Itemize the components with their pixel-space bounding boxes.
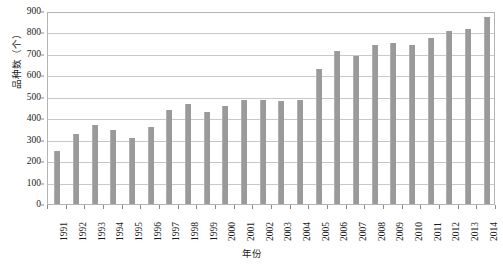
y-axis-tick-label: 700 <box>27 50 41 60</box>
x-axis-title: 年份 <box>0 246 503 260</box>
x-axis-tick-label: 2014 <box>490 222 500 241</box>
x-axis-tick-label: 2010 <box>415 222 425 241</box>
y-axis-tick-labels: 0100200300400500600700800900 <box>0 0 44 265</box>
x-axis-tick-label: 2007 <box>359 222 369 241</box>
x-axis-tick-label: 1992 <box>79 222 89 241</box>
x-axis-tick-label: 2000 <box>228 222 238 241</box>
bar <box>390 43 396 204</box>
bar <box>409 45 415 204</box>
y-axis-tick-mark <box>41 205 44 206</box>
y-axis-tick-mark <box>41 12 44 13</box>
y-axis-tick-mark <box>41 183 44 184</box>
y-axis-tick-label: 900 <box>27 7 41 17</box>
x-axis-tick-label: 2008 <box>378 222 388 241</box>
y-axis-tick-mark <box>41 76 44 77</box>
x-axis-tick-label: 1999 <box>210 222 220 241</box>
bar-chart: 品种数（个） 0100200300400500600700800900 1991… <box>0 0 503 265</box>
y-axis-tick-mark <box>41 97 44 98</box>
x-axis-tick-label: 2004 <box>303 222 313 241</box>
plot-area <box>47 12 495 205</box>
bar <box>372 45 378 204</box>
x-axis-tick-label: 2012 <box>452 222 462 241</box>
y-axis-tick-label: 300 <box>27 136 41 146</box>
bar <box>185 104 191 204</box>
bar <box>484 17 490 204</box>
x-axis-tick-label: 2009 <box>396 222 406 241</box>
bar <box>353 56 359 204</box>
bar <box>92 125 98 204</box>
bar <box>54 151 60 204</box>
y-axis-tick-label: 200 <box>27 157 41 167</box>
bar <box>222 106 228 204</box>
x-axis-tick-label: 2005 <box>322 222 332 241</box>
y-axis-tick-mark <box>41 162 44 163</box>
y-axis-tick-label: 400 <box>27 114 41 124</box>
x-axis-tick-label: 2011 <box>434 222 444 241</box>
x-axis-tick-label: 2001 <box>247 222 257 241</box>
x-axis-tick-label: 2013 <box>471 222 481 241</box>
bar <box>297 100 303 204</box>
x-axis-tick-label: 1993 <box>98 222 108 241</box>
bar <box>204 112 210 204</box>
bar <box>278 101 284 204</box>
x-axis-tick-label: 1998 <box>191 222 201 241</box>
bar-series <box>48 13 494 204</box>
y-axis-tick-mark <box>41 33 44 34</box>
x-axis-tick-labels: 1991199219931994199519961997199819992000… <box>47 209 495 245</box>
bar <box>334 51 340 204</box>
y-axis-tick-label: 600 <box>27 72 41 82</box>
y-axis-tick-label: 500 <box>27 93 41 103</box>
bar <box>129 138 135 204</box>
y-axis-tick-label: 800 <box>27 29 41 39</box>
x-axis-tick-label: 1991 <box>60 222 70 241</box>
bar <box>260 100 266 204</box>
x-axis-tick-label: 1994 <box>116 222 126 241</box>
x-axis-tick-label: 2003 <box>284 222 294 241</box>
bar <box>166 110 172 204</box>
x-axis-tick-mark <box>495 205 496 209</box>
y-axis-tick-mark <box>41 119 44 120</box>
x-axis-tick-label: 1996 <box>154 222 164 241</box>
bar <box>446 31 452 204</box>
y-axis-tick-mark <box>41 54 44 55</box>
x-axis-tick-label: 2002 <box>266 222 276 241</box>
y-axis-tick-mark <box>41 140 44 141</box>
bar <box>73 134 79 204</box>
bar <box>428 38 434 204</box>
bar <box>241 100 247 204</box>
bar <box>148 127 154 204</box>
bar <box>110 130 116 204</box>
x-axis-tick-label: 1997 <box>172 222 182 241</box>
x-axis-tick-label: 1995 <box>135 222 145 241</box>
y-axis-tick-label: 100 <box>27 179 41 189</box>
bar <box>465 29 471 204</box>
x-axis-tick-label: 2006 <box>340 222 350 241</box>
bar <box>316 69 322 204</box>
